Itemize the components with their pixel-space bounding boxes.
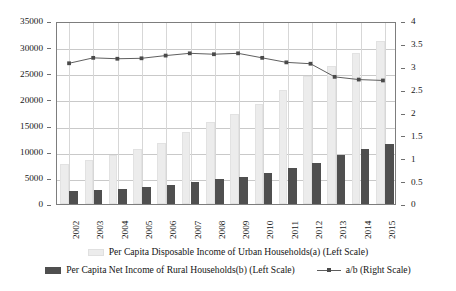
- y-axis-left-tick: [47, 74, 51, 75]
- y-axis-left-tick-label: 0: [38, 200, 43, 209]
- y-axis-left-tick: [47, 179, 51, 180]
- y-axis-left-tick: [47, 205, 51, 206]
- y-axis-left-tick: [47, 127, 51, 128]
- y-axis-right-tick: [401, 136, 405, 137]
- line-swatch-icon: [317, 266, 341, 274]
- ratio-line-marker: [164, 54, 168, 58]
- y-axis-left-tick-label: 10000: [20, 148, 43, 157]
- x-axis-tick-label: 2004: [121, 221, 130, 239]
- y-axis-right-tick: [401, 114, 405, 115]
- legend-item-urban: Per Capita Disposable Income of Urban Ho…: [88, 247, 368, 257]
- plot-area: [56, 22, 396, 205]
- y-axis-right-tick-label: 3.5: [411, 40, 422, 49]
- legend-item-rural: Per Capita Net Income of Rural Household…: [45, 265, 295, 275]
- x-axis-tick-label: 2008: [218, 221, 227, 239]
- y-axis-left-tick-label: 5000: [25, 174, 43, 183]
- y-axis-right-tick: [401, 68, 405, 69]
- y-axis-right: 00.511.522.533.54: [400, 22, 450, 205]
- ratio-line-marker: [188, 51, 192, 55]
- chart-container: 05000100001500020000250003000035000 00.5…: [0, 0, 456, 291]
- x-axis-tick-label: 2014: [364, 221, 373, 239]
- y-axis-left-tick: [47, 48, 51, 49]
- urban-swatch-icon: [88, 249, 104, 256]
- y-axis-right-tick: [401, 159, 405, 160]
- ratio-line-marker: [357, 78, 361, 82]
- y-axis-right-tick-label: 0: [411, 200, 416, 209]
- y-axis-left: 05000100001500020000250003000035000: [0, 22, 52, 205]
- ratio-line-marker: [236, 51, 240, 55]
- legend-item-ratio: a/b (Right Scale): [317, 265, 411, 275]
- legend-label-ratio: a/b (Right Scale): [346, 265, 411, 275]
- x-axis-tick-label: 2015: [388, 221, 397, 239]
- y-axis-left-tick-label: 25000: [20, 70, 43, 79]
- x-axis-tick-label: 2010: [266, 221, 275, 239]
- ratio-line-marker: [91, 56, 95, 60]
- x-axis-tick-label: 2003: [96, 221, 105, 239]
- ratio-line-marker: [381, 79, 385, 83]
- x-axis-tick-label: 2011: [291, 221, 300, 239]
- y-axis-right-tick-label: 0.5: [411, 178, 422, 187]
- rural-swatch-icon: [45, 267, 61, 274]
- y-axis-left-tick-label: 20000: [20, 96, 43, 105]
- y-axis-right-tick: [401, 182, 405, 183]
- x-axis-tick-label: 2005: [145, 221, 154, 239]
- y-axis-right-tick-label: 4: [411, 17, 416, 26]
- x-axis-labels: 2002200320042005200620072008200920102011…: [56, 207, 396, 243]
- y-axis-right-tick-label: 2: [411, 109, 416, 118]
- y-axis-left-tick-label: 35000: [20, 17, 43, 26]
- y-axis-left-tick-label: 30000: [20, 44, 43, 53]
- y-axis-right-tick-label: 2.5: [411, 86, 422, 95]
- ratio-line-marker: [67, 61, 71, 65]
- y-axis-right-tick-label: 1: [411, 155, 416, 164]
- x-axis-tick-label: 2007: [194, 221, 203, 239]
- ratio-line-marker: [333, 75, 337, 79]
- ratio-line-marker: [212, 52, 216, 56]
- y-axis-right-tick: [401, 91, 405, 92]
- y-axis-right-tick: [401, 45, 405, 46]
- ratio-line-marker: [115, 57, 119, 61]
- legend-label-rural: Per Capita Net Income of Rural Household…: [66, 265, 295, 275]
- y-axis-left-tick: [47, 153, 51, 154]
- y-axis-right-tick: [401, 205, 405, 206]
- ratio-line-marker: [140, 56, 144, 60]
- y-axis-right-tick: [401, 22, 405, 23]
- ratio-line-marker: [309, 62, 313, 66]
- ratio-line-marker: [284, 60, 288, 64]
- x-axis-tick-label: 2002: [72, 221, 81, 239]
- x-axis-tick-label: 2012: [315, 221, 324, 239]
- y-axis-right-tick-label: 1.5: [411, 132, 422, 141]
- y-axis-left-tick-label: 15000: [20, 122, 43, 131]
- legend-label-urban: Per Capita Disposable Income of Urban Ho…: [109, 247, 368, 257]
- ratio-line-series: [57, 23, 395, 204]
- x-axis-tick-label: 2009: [242, 221, 251, 239]
- x-axis-tick-label: 2006: [169, 221, 178, 239]
- ratio-line-marker: [260, 56, 264, 60]
- y-axis-left-tick: [47, 22, 51, 23]
- chart-legend: Per Capita Disposable Income of Urban Ho…: [0, 243, 456, 279]
- y-axis-right-tick-label: 3: [411, 63, 416, 72]
- x-axis-tick-label: 2013: [339, 221, 348, 239]
- y-axis-left-tick: [47, 100, 51, 101]
